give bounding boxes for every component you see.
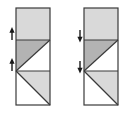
left-arrow-lower: [9, 58, 14, 71]
right-arrow-lower: [77, 61, 82, 74]
left-arrow-upper-head: [9, 27, 14, 33]
left-arrow-upper: [9, 27, 14, 40]
right-arrow-upper: [77, 30, 82, 43]
diagram-svg: [0, 0, 124, 114]
right-arrow-lower-head: [77, 68, 82, 74]
left-panel: [9, 8, 50, 105]
right-band-top-fill: [84, 8, 118, 40]
right-panel: [77, 8, 118, 105]
diagram-canvas: [0, 0, 124, 114]
left-band-top-fill: [16, 8, 50, 40]
left-arrow-lower-head: [9, 58, 14, 64]
right-arrow-upper-head: [77, 37, 82, 43]
